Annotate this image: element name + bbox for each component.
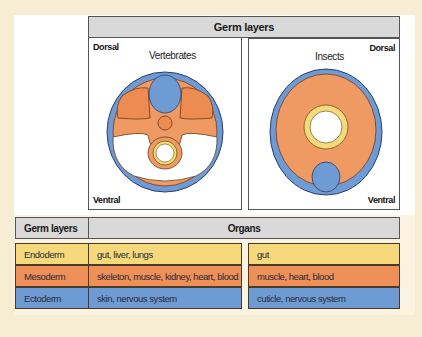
vertebrate-cross-section [107, 72, 223, 192]
table-header: Germ layers Organs [15, 217, 400, 239]
insect-organs-cell: gut [248, 243, 400, 265]
table-row-ectoderm: Ectoderm skin, nervous system cuticle, n… [15, 287, 400, 309]
layer-cell: Mesoderm [15, 265, 89, 287]
layer-cell: Endoderm [15, 243, 89, 265]
vertebrate-organs-cell: gut, liver, lungs [88, 243, 242, 265]
insect-organs-cell: cuticle, nervous system [248, 287, 400, 309]
table-row-mesoderm: Mesoderm skeleton, muscle, kidney, heart… [15, 265, 400, 287]
insect-organs-cell: muscle, heart, blood [248, 265, 400, 287]
insect-cross-section [270, 69, 382, 195]
table-row-endoderm: Endoderm gut, liver, lungs gut [15, 243, 400, 265]
organs-column-header: Organs [89, 217, 400, 239]
vertebrate-organs-cell: skin, nervous system [88, 287, 242, 309]
vertebrate-organs-cell: skeleton, muscle, kidney, heart, blood [88, 265, 242, 287]
layer-cell: Ectoderm [15, 287, 89, 309]
germ-layers-column-header: Germ layers [15, 217, 89, 239]
